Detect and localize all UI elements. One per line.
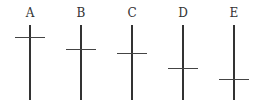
vertical-line-b bbox=[80, 25, 81, 100]
crossbar-c bbox=[117, 53, 147, 54]
crossbar-a bbox=[15, 37, 45, 38]
vertical-line-d bbox=[182, 25, 183, 100]
label-b: B bbox=[71, 6, 91, 20]
crossbar-e bbox=[219, 79, 249, 80]
cross-diagram: A B C D E bbox=[0, 0, 265, 106]
crossbar-d bbox=[168, 68, 198, 69]
label-c: C bbox=[122, 6, 142, 20]
crossbar-b bbox=[66, 49, 96, 50]
vertical-line-c bbox=[131, 25, 132, 100]
label-e: E bbox=[224, 6, 244, 20]
label-a: A bbox=[20, 6, 40, 20]
label-d: D bbox=[173, 6, 193, 20]
vertical-line-e bbox=[233, 25, 234, 100]
